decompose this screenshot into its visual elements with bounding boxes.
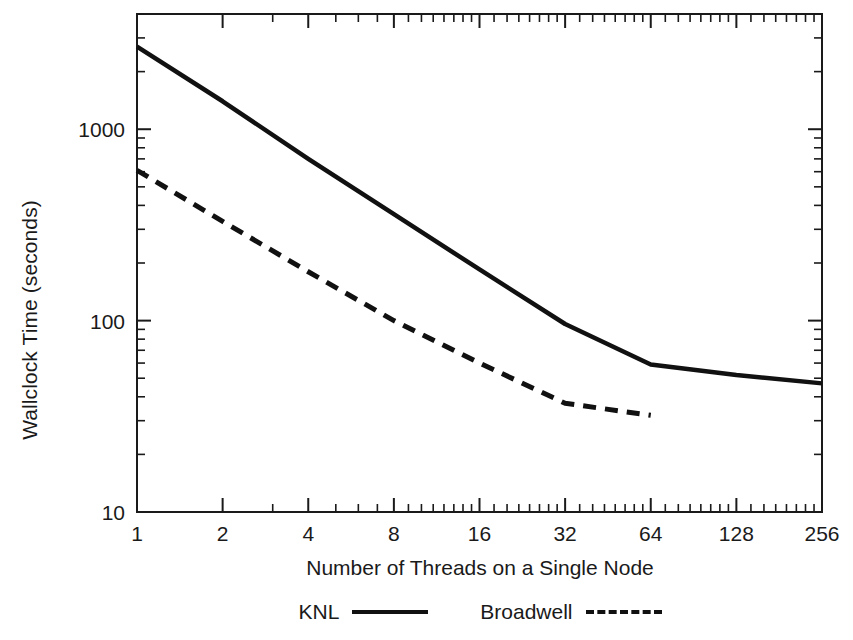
x-tick-label: 128 xyxy=(719,522,754,545)
legend-entry-knl: KNL xyxy=(298,600,428,624)
series-line-broadwell xyxy=(137,170,651,415)
series-line-knl xyxy=(137,47,822,384)
x-tick-label: 16 xyxy=(468,522,491,545)
legend-swatch-solid-line xyxy=(352,610,428,614)
x-tick-label: 32 xyxy=(553,522,576,545)
x-tick-label: 2 xyxy=(217,522,229,545)
plot-area: 1010010001248163264128256 xyxy=(0,0,853,640)
tick-label-layer: 1010010001248163264128256 xyxy=(78,118,839,545)
series-layer xyxy=(137,47,822,416)
legend-label-broadwell: Broadwell xyxy=(480,600,572,624)
y-tick-label: 1000 xyxy=(78,118,125,141)
y-axis-title-wrapper: Wallclock Time (seconds) xyxy=(8,0,52,530)
legend-entry-broadwell: Broadwell xyxy=(480,600,661,624)
chart-figure: Wallclock Time (seconds) 101001000124816… xyxy=(0,0,853,640)
x-tick-label: 8 xyxy=(388,522,400,545)
y-tick-label: 10 xyxy=(102,501,125,524)
x-tick-label: 1 xyxy=(131,522,143,545)
y-axis-title: Wallclock Time (seconds) xyxy=(8,0,52,640)
y-tick-label: 100 xyxy=(90,310,125,333)
x-tick-label: 64 xyxy=(639,522,663,545)
x-tick-label: 4 xyxy=(302,522,314,545)
chart-legend: KNL Broadwell xyxy=(137,600,823,624)
legend-label-knl: KNL xyxy=(298,600,339,624)
x-axis-title: Number of Threads on a Single Node xyxy=(137,556,823,580)
axis-layer xyxy=(137,14,822,512)
plot-frame xyxy=(137,14,822,512)
legend-swatch-dashed-line xyxy=(586,610,662,614)
x-tick-label: 256 xyxy=(804,522,839,545)
